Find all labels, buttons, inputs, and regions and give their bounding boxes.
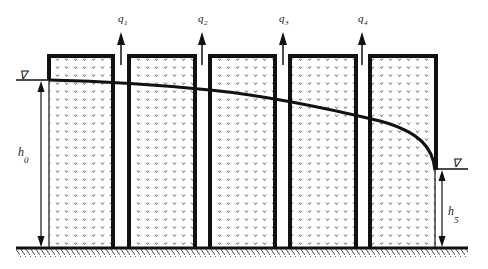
ground (16, 248, 468, 257)
svg-text:5: 5 (454, 215, 459, 225)
svg-text:1: 1 (124, 19, 128, 27)
seepage-diagram: ∇ h 0 ∇ h 5 q 1 q 2 q 3 q 4 (0, 0, 488, 269)
svg-text:3: 3 (284, 19, 289, 27)
svg-text:2: 2 (204, 19, 208, 27)
outflow-q3: q 3 (279, 12, 289, 65)
arrow-up-icon (358, 32, 366, 45)
svg-text:4: 4 (364, 19, 368, 27)
block-3 (210, 56, 275, 248)
outflow-q2: q 2 (198, 12, 208, 65)
arrow-up-icon (279, 32, 287, 45)
outflow-q4: q 4 (358, 12, 368, 65)
outflow-q1: q 1 (117, 12, 128, 65)
downstream-level: ∇ h 5 (435, 156, 468, 247)
arrow-up-icon (198, 32, 206, 45)
upstream-level: ∇ h 0 (16, 68, 50, 247)
block-4 (290, 56, 356, 248)
water-level-symbol-right: ∇ (452, 156, 463, 170)
block-5 (370, 54, 436, 248)
svg-text:0: 0 (24, 155, 29, 165)
arrow-up-icon (117, 32, 125, 45)
block-1 (49, 56, 113, 248)
